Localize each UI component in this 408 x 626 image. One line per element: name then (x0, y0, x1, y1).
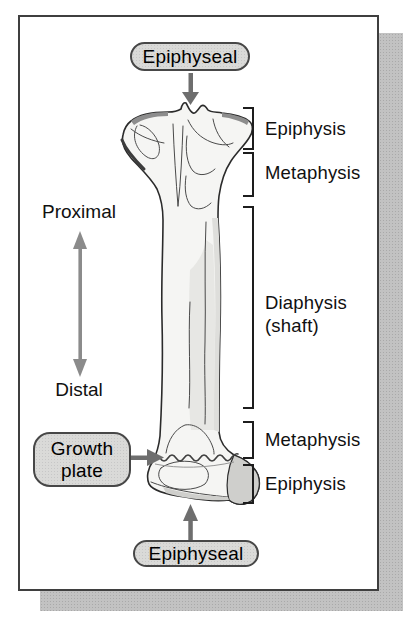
region-label-epiphysis-bottom: Epiphysis (265, 473, 346, 495)
callout-growth-plate: Growth plate (33, 432, 131, 487)
figure: Epiphyseal Growth plate Epiphyseal Proxi… (0, 0, 408, 626)
up-arrow-icon (183, 504, 198, 541)
callout-epiphyseal-top-label: Epiphyseal (143, 46, 238, 68)
region-label-diaphysis-main: Diaphysis (265, 291, 347, 314)
double-headed-arrow-icon (73, 231, 87, 377)
bracket-diaphysis (243, 207, 253, 408)
bracket-metaphysis-bottom (243, 422, 253, 458)
callout-epiphyseal-bottom: Epiphyseal (133, 540, 259, 567)
region-label-diaphysis: Diaphysis (shaft) (265, 291, 347, 337)
shaft-shading-inner (189, 240, 215, 430)
region-label-epiphysis-top: Epiphysis (265, 118, 346, 140)
callout-epiphyseal-bottom-label: Epiphyseal (149, 543, 244, 565)
growth-plate-line2: plate (61, 460, 103, 482)
region-label-metaphysis-top: Metaphysis (265, 162, 361, 184)
region-label-diaphysis-sub: (shaft) (265, 314, 347, 337)
growth-plate-line1: Growth (51, 438, 113, 460)
region-brackets (243, 108, 253, 503)
callout-epiphyseal-top: Epiphyseal (130, 42, 250, 71)
down-arrow-icon (182, 73, 199, 105)
distal-label: Distal (47, 379, 111, 401)
long-bone (122, 103, 259, 505)
region-label-metaphysis-bottom: Metaphysis (265, 429, 361, 451)
proximal-label: Proximal (36, 201, 122, 223)
bracket-metaphysis-top (243, 153, 253, 196)
